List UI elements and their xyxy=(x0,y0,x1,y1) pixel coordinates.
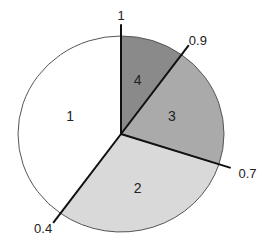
pie-chart: 4321 10.90.70.4 xyxy=(0,0,271,247)
boundary-label: 1 xyxy=(117,8,124,23)
boundary-label: 0.7 xyxy=(239,166,257,181)
slice-label-3: 3 xyxy=(168,108,176,124)
slice-label-1: 1 xyxy=(66,108,74,124)
boundary-label: 0.4 xyxy=(34,221,52,236)
slice-label-4: 4 xyxy=(134,72,142,88)
boundary-label: 0.9 xyxy=(189,33,207,48)
slice-label-2: 2 xyxy=(134,180,142,196)
